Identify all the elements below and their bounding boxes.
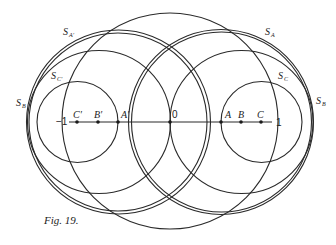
label-minus-one: −1 <box>56 116 68 127</box>
svg-text:C: C <box>284 76 289 82</box>
svg-text:A: A <box>270 32 275 38</box>
apollonian-circles-diagram: −1 0 1 C′ B′ A′ A B C S A′ S A S C′ S C … <box>0 0 336 245</box>
svg-text:S: S <box>63 26 68 37</box>
point-a-prime <box>116 120 120 124</box>
label-point-b-prime: B′ <box>94 109 103 120</box>
svg-text:B: B <box>22 103 26 109</box>
label-s-c: S C <box>278 70 289 82</box>
point-origin <box>168 120 172 124</box>
label-one: 1 <box>276 117 282 128</box>
label-point-c-prime: C′ <box>73 109 83 120</box>
label-s-a-prime: S A′ <box>63 26 75 38</box>
label-point-b: B <box>238 109 244 120</box>
point-b-prime <box>96 120 100 124</box>
label-point-c: C <box>257 109 264 120</box>
svg-text:S: S <box>265 26 270 37</box>
label-point-a: A <box>224 109 232 120</box>
point-b <box>239 120 243 124</box>
svg-text:C′: C′ <box>57 76 63 82</box>
svg-text:S: S <box>16 97 21 108</box>
label-point-a-prime: A′ <box>120 109 130 120</box>
label-s-a: S A <box>265 26 275 38</box>
label-s-b-right: S B <box>316 95 326 107</box>
label-origin: 0 <box>172 109 178 120</box>
label-s-b-left: S B <box>16 97 26 109</box>
svg-text:S: S <box>51 70 56 81</box>
label-s-c-prime: S C′ <box>51 70 63 82</box>
figure-caption: Fig. 19. <box>44 214 79 226</box>
svg-text:S: S <box>316 95 321 106</box>
point-a <box>219 120 223 124</box>
svg-text:B: B <box>322 101 326 107</box>
point-c-prime <box>75 120 79 124</box>
svg-text:S: S <box>278 70 283 81</box>
point-c <box>259 120 263 124</box>
svg-text:A′: A′ <box>68 32 75 38</box>
